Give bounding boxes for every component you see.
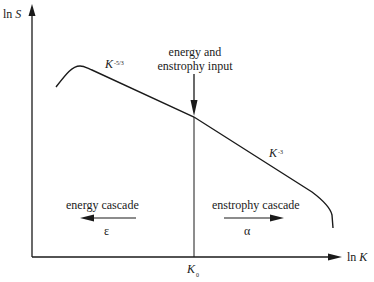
- enstrophy-cascade-arrow-icon: [270, 215, 284, 222]
- slope-left-base: K: [105, 57, 113, 71]
- enstrophy-cascade-label: enstrophy cascade: [212, 198, 300, 212]
- k0-label-var: K: [187, 262, 195, 276]
- slope-right-label: K-3: [269, 146, 283, 160]
- y-axis-arrow-icon: [29, 4, 36, 16]
- x-axis-label-var: K: [359, 250, 367, 264]
- diagram-canvas: [0, 0, 374, 282]
- input-label-line1: energy and: [140, 45, 250, 59]
- slope-right-base: K: [269, 146, 277, 160]
- energy-cascade-symbol: ε: [104, 224, 109, 238]
- input-arrow-icon: [191, 100, 198, 116]
- x-axis-label-prefix: ln: [347, 250, 359, 264]
- enstrophy-cascade-symbol: α: [244, 224, 250, 238]
- y-axis-label-prefix: ln: [3, 7, 15, 21]
- y-axis-label-var: S: [15, 7, 21, 21]
- k0-label-sub: 0: [196, 272, 199, 278]
- x-axis-label: ln K: [347, 250, 367, 264]
- energy-cascade-label: energy cascade: [66, 198, 139, 212]
- x-axis-arrow-icon: [328, 254, 342, 261]
- slope-right-exp: -3: [278, 149, 283, 155]
- input-label-line2: enstrophy input: [140, 59, 250, 73]
- k0-label: K0: [187, 262, 199, 278]
- input-label: energy and enstrophy input: [140, 45, 250, 73]
- energy-cascade-arrow-icon: [80, 215, 94, 222]
- slope-left-label: K-5/3: [105, 57, 124, 71]
- slope-left-exp: -5/3: [114, 60, 124, 66]
- y-axis-label: ln S: [3, 7, 21, 21]
